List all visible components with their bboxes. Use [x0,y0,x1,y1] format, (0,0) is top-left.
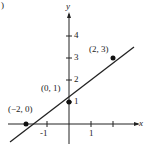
x-tick-label-neg1: -1 [40,129,48,138]
point-neg2-0 [24,122,29,127]
point-0-1 [67,100,72,105]
point-label-neg2-0: (−2, 0) [8,105,33,114]
graph-line [10,47,134,142]
point-label-2-3: (2, 3) [89,45,109,54]
y-tick-label-4: 4 [74,31,79,40]
x-axis-label: x [139,119,143,128]
plot-area [0,0,146,147]
y-tick-label-2: 2 [74,75,79,84]
x-tick-label-1: 1 [89,129,94,138]
y-tick-label-3: 3 [74,53,79,62]
point-2-3 [111,56,116,61]
y-tick-label-1: 1 [74,97,79,106]
y-axis-label: y [66,2,70,11]
y-axis-arrow-icon [67,12,71,18]
point-label-0-1: (0, 1) [41,84,61,93]
